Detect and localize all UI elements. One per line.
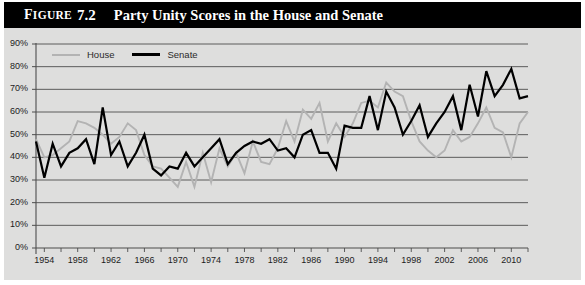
chart-panel: House Senate 0%10%20%30%40%50%60%70%80%9…	[4, 28, 581, 280]
y-axis-tick-label: 90%	[2, 38, 28, 48]
chart-legend: House Senate	[52, 49, 198, 60]
y-axis-tick-label: 30%	[2, 174, 28, 184]
series-line-senate	[36, 69, 528, 178]
line-swatch-icon-house	[52, 54, 80, 56]
line-swatch-icon-senate	[132, 53, 160, 57]
x-axis-tick-label: 1962	[97, 255, 125, 265]
figure-container: FIGURE 7.2 Party Unity Scores in the Hou…	[0, 0, 585, 285]
y-axis-tick-label: 70%	[2, 83, 28, 93]
x-axis-tick-label: 1994	[364, 255, 392, 265]
y-axis-tick-label: 80%	[2, 61, 28, 71]
x-axis-tick-label: 2006	[464, 255, 492, 265]
plot-area	[4, 28, 581, 280]
x-axis-tick-label: 1990	[331, 255, 359, 265]
x-axis-tick-label: 1986	[297, 255, 325, 265]
x-axis-tick-label: 1954	[30, 255, 58, 265]
y-axis-tick-label: 10%	[2, 219, 28, 229]
figure-label: FIGURE	[24, 7, 72, 23]
y-axis-tick-label: 50%	[2, 129, 28, 139]
y-axis-tick-label: 20%	[2, 197, 28, 207]
legend-label-senate: Senate	[167, 49, 197, 60]
figure-number: 7.2	[77, 7, 96, 24]
x-axis-tick-label: 1966	[130, 255, 158, 265]
x-axis-tick-label: 2002	[431, 255, 459, 265]
x-axis-tick-label: 1970	[164, 255, 192, 265]
legend-item-senate: Senate	[132, 49, 197, 60]
x-axis-tick-label: 1974	[197, 255, 225, 265]
x-axis-tick-label: 1998	[397, 255, 425, 265]
x-axis-tick-label: 1978	[230, 255, 258, 265]
figure-label-caps: IGURE	[33, 9, 72, 21]
x-axis-tick-label: 1958	[64, 255, 92, 265]
legend-item-house: House	[52, 49, 114, 60]
x-axis-tick-label: 1982	[264, 255, 292, 265]
figure-title-bar: FIGURE 7.2 Party Unity Scores in the Hou…	[4, 2, 581, 28]
y-axis-tick-label: 0%	[2, 242, 28, 252]
legend-label-house: House	[87, 49, 114, 60]
y-axis-tick-label: 40%	[2, 151, 28, 161]
y-axis-tick-label: 60%	[2, 106, 28, 116]
figure-title-text: Party Unity Scores in the House and Sena…	[114, 7, 383, 24]
line-chart-svg	[4, 28, 581, 280]
x-axis-tick-label: 2010	[497, 255, 525, 265]
figure-label-first: F	[24, 7, 33, 22]
